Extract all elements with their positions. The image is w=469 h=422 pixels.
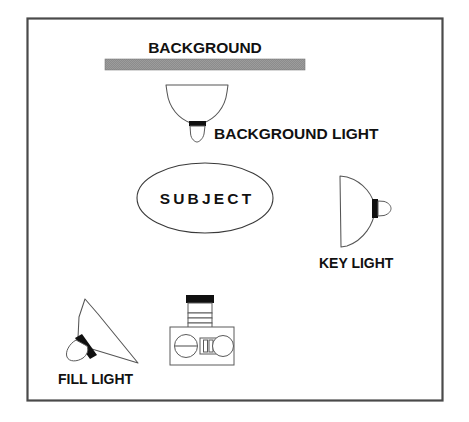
fill-light-label: FILL LIGHT — [58, 371, 134, 387]
key-light-label: KEY LIGHT — [319, 255, 394, 271]
camera-barrel-ring-3 — [188, 318, 212, 323]
background-light-element: BACKGROUND LIGHT — [166, 85, 379, 142]
camera-lens-cap — [186, 295, 214, 303]
key-light-bulb — [378, 201, 391, 216]
camera-element — [170, 295, 234, 365]
background-bar — [105, 59, 305, 70]
background-light-bulb — [190, 126, 205, 142]
subject-label: SUBJECT — [160, 190, 255, 207]
camera-lens — [213, 336, 234, 357]
camera-barrel-ring-2 — [188, 313, 212, 318]
fill-light-element: FILL LIGHT — [58, 299, 138, 387]
background-light-socket — [189, 121, 206, 126]
key-light-socket — [372, 199, 378, 218]
background-light-label: BACKGROUND LIGHT — [214, 125, 379, 142]
diagram-canvas: BACKGROUND BACKGROUND LIGHT SUBJECT KEY … — [0, 0, 469, 422]
key-light-reflector — [340, 176, 375, 247]
camera-control-bar-1 — [204, 340, 208, 352]
subject-element: SUBJECT — [137, 163, 273, 233]
lighting-diagram: BACKGROUND BACKGROUND LIGHT SUBJECT KEY … — [0, 0, 469, 422]
background-light-reflector — [166, 85, 228, 123]
background-element: BACKGROUND — [105, 39, 305, 70]
background-label: BACKGROUND — [148, 39, 262, 56]
key-light-element: KEY LIGHT — [319, 176, 394, 271]
camera-barrel-ring-1 — [188, 303, 212, 313]
